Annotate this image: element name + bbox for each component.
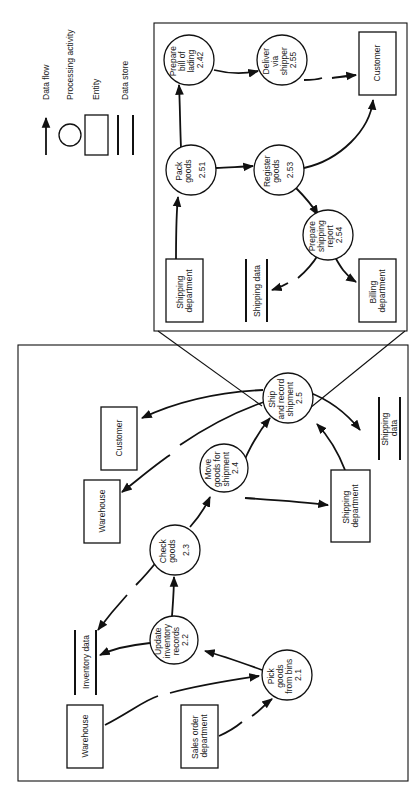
svg-text:Shipping department: Shipping department	[175, 269, 194, 313]
legend-data-store-label: Data store	[120, 61, 130, 100]
process-pack-goods[interactable]: Pack goods 2.51	[166, 145, 216, 195]
svg-text:Sales order department: Sales order department	[190, 713, 209, 759]
svg-text:Inventory data: Inventory data	[81, 635, 91, 689]
entity-shipping-department-overview[interactable]: Shipping department	[331, 470, 370, 542]
process-pick-goods-from-bins[interactable]: Pick goods from bins 2.1	[262, 650, 312, 700]
entity-sales-order-department[interactable]: Sales order department	[181, 705, 218, 768]
entity-customer-overview[interactable]: Customer	[101, 407, 137, 470]
legend-entity-label: Entity	[91, 78, 101, 100]
legend-process-circle-icon	[59, 124, 81, 146]
process-check-goods[interactable]: Check goods 2.3	[150, 525, 200, 575]
data-flow-diagram: Data flow Processing activity Entity Dat…	[0, 0, 418, 796]
svg-text:Customer: Customer	[114, 419, 124, 456]
process-register-goods[interactable]: Register goods 2.53	[254, 145, 304, 195]
detail-panel: Prepare bill of lading 2.42 Deliver via …	[154, 23, 407, 408]
store-shipping-data-detail[interactable]: Shipping data	[246, 259, 267, 322]
entity-warehouse-bottom[interactable]: Warehouse	[67, 705, 103, 768]
svg-text:Shipping department: Shipping department	[341, 484, 360, 528]
svg-text:Warehouse: Warehouse	[97, 489, 107, 532]
process-prepare-bill-of-lading[interactable]: Prepare bill of lading 2.42	[164, 35, 214, 85]
process-update-inventory-records[interactable]: Update inventory records 2.2	[150, 616, 198, 664]
zoom-line-left	[158, 331, 262, 406]
store-inventory-data[interactable]: Inventory data	[75, 630, 96, 695]
svg-text:Customer: Customer	[372, 44, 382, 81]
process-prepare-shipping-report[interactable]: Prepare shipping report 2.54	[303, 210, 353, 260]
overview-panel: Ship and record shipment 2.5 Move goods …	[18, 345, 408, 781]
legend-data-flow-label: Data flow	[41, 64, 51, 100]
svg-text:Shipping data: Shipping data	[252, 265, 262, 317]
svg-text:Warehouse: Warehouse	[80, 714, 90, 757]
entity-billing-department[interactable]: Billing department	[359, 259, 396, 322]
legend-entity-rect-icon	[85, 115, 108, 155]
zoom-line-right	[310, 331, 405, 408]
entity-shipping-department-detail[interactable]: Shipping department	[166, 259, 203, 322]
process-move-goods-for-shipment[interactable]: Move goods for shipment 2.4	[200, 444, 248, 492]
legend: Data flow Processing activity Entity Dat…	[41, 29, 133, 155]
process-ship-and-record-shipment[interactable]: Ship and record shipment 2.5	[263, 373, 313, 423]
entity-customer-detail[interactable]: Customer	[359, 32, 396, 95]
store-shipping-data-overview[interactable]: Shipping data	[379, 397, 400, 460]
svg-text:Shipping data: Shipping data	[380, 410, 399, 445]
legend-process-label: Processing activity	[65, 29, 75, 100]
process-deliver-via-shipper[interactable]: Deliver via shipper 2.55	[257, 35, 307, 85]
entity-warehouse-top[interactable]: Warehouse	[84, 480, 120, 543]
